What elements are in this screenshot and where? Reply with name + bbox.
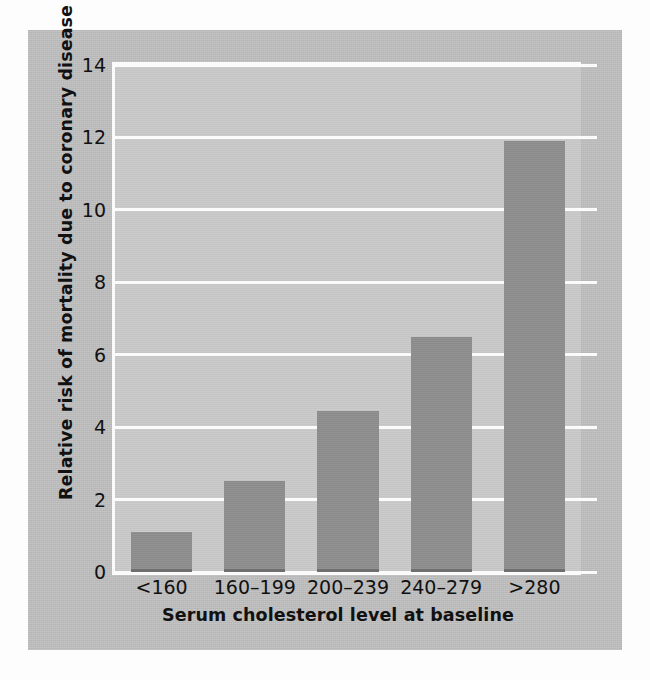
x-axis-tick-label: 200–239 [307,576,389,598]
y-axis-tick-mark [581,136,597,139]
y-axis-tick-label: 0 [94,561,106,583]
bar [504,141,565,572]
y-axis-tick-mark [581,571,597,574]
y-axis-tick-mark [581,208,597,211]
y-axis-tick-label: 6 [94,344,106,366]
y-axis-tick-mark [581,64,597,67]
bars-layer [115,65,581,572]
x-axis-tick-label: 240–279 [400,576,482,598]
y-axis-tick-label: 10 [82,199,106,221]
bar [224,481,285,572]
x-axis-title: Serum cholesterol level at baseline [88,605,588,625]
x-axis-tick-labels: <160160–199200–239240–279>280 [112,576,584,604]
y-axis-tick-mark [581,281,597,284]
figure-root: Relative risk of mortality due to corona… [0,0,650,680]
y-axis-tick-mark [581,426,597,429]
y-axis-title: Relative risk of mortality due to corona… [56,60,76,500]
y-axis-tick-mark [581,498,597,501]
y-axis-tick-mark [581,353,597,356]
y-axis-tick-label: 2 [94,489,106,511]
bar [411,337,472,572]
bar [317,411,378,572]
plot-area: 02468101214 [112,62,581,575]
x-axis-tick-label: 160–199 [214,576,296,598]
y-axis-tick-label: 12 [82,126,106,148]
x-axis-tick-label: <160 [136,576,188,598]
bar [131,532,192,572]
y-axis-tick-label: 4 [94,416,106,438]
y-axis-tick-label: 14 [82,54,106,76]
y-axis-tick-label: 8 [94,271,106,293]
x-axis-tick-label: >280 [508,576,560,598]
chart-figure-panel: Relative risk of mortality due to corona… [28,30,622,650]
